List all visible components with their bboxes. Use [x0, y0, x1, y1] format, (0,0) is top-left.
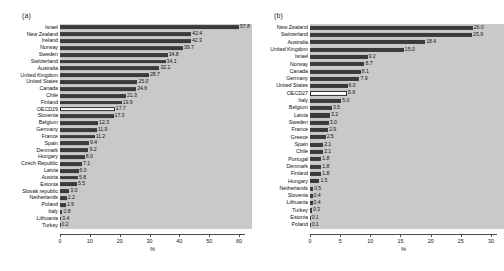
bar-track: 6.0 — [60, 167, 252, 174]
bar-value-label: 26.0 — [473, 25, 484, 30]
axis-tick-label: 5 — [339, 238, 342, 244]
bar-value-label: 3.2 — [330, 113, 338, 118]
bar-track: 42.4 — [60, 31, 252, 38]
bar-track: 0.4 — [310, 200, 504, 207]
panel-a-tag: (a) — [22, 12, 31, 19]
category-label: Denmark — [252, 164, 310, 169]
bar — [60, 121, 98, 125]
bar-track: 0.4 — [310, 192, 504, 199]
bar-value-label: 9.2 — [368, 54, 376, 59]
bar — [60, 148, 88, 152]
bar — [310, 143, 323, 147]
category-label: Belgium — [0, 120, 60, 125]
bar — [60, 46, 183, 50]
bar-track: 39.7 — [60, 44, 252, 51]
bar — [60, 155, 85, 159]
axis-tick-label: 20 — [117, 238, 123, 244]
axis-tick — [90, 234, 91, 237]
bar-value-label: 34.8 — [168, 52, 179, 57]
bar-track: 0.4 — [60, 215, 252, 222]
category-label: Finland — [252, 171, 310, 176]
category-label: Turkey — [0, 223, 60, 228]
bar-track: 11.9 — [60, 126, 252, 133]
bar-track: 8.7 — [310, 61, 504, 68]
bar — [60, 87, 136, 91]
bar-value-label: 1.8 — [321, 157, 329, 162]
axis-tick — [491, 234, 492, 237]
axis-tick-label: 60 — [236, 238, 242, 244]
bar-row: France11.2 — [0, 133, 252, 140]
category-label: Israel — [0, 25, 60, 30]
category-label: Chile — [0, 93, 60, 98]
bar-value-label: 7.1 — [82, 161, 90, 166]
bar-value-label: 25.0 — [137, 79, 148, 84]
axis-tick-label: 15 — [397, 238, 403, 244]
bar-row: Norway8.7 — [252, 61, 504, 68]
bar — [60, 26, 239, 30]
bar-value-label: 24.6 — [136, 86, 147, 91]
bar-value-label: 0.4 — [313, 201, 321, 206]
category-label: Germany — [0, 127, 60, 132]
axis-tick-label: 10 — [367, 238, 373, 244]
bar — [310, 55, 368, 59]
bar-row: Slovenia0.4 — [252, 192, 504, 199]
bar — [310, 179, 319, 183]
category-label: Canada — [252, 69, 310, 74]
panel-a-bar-rows: Israel57.8New Zealand42.4Ireland42.3Norw… — [0, 24, 252, 229]
panel-b-plot: New Zealand26.0Switzerland25.9Australia1… — [252, 24, 504, 234]
bar-value-label: 17.7 — [115, 107, 126, 112]
axis-tick — [370, 234, 371, 237]
bar-track: 2.9 — [310, 126, 504, 133]
bar-row: Netherlands0.5 — [252, 185, 504, 192]
category-label: Latvia — [0, 168, 60, 173]
bar-row: Italy5.0 — [252, 97, 504, 104]
category-label: Netherlands — [252, 186, 310, 191]
bar-value-label: 3.5 — [332, 105, 340, 110]
bar-row: Poland0.1 — [252, 221, 504, 228]
category-label: Sweden — [0, 52, 60, 57]
axis-tick-label: 30 — [488, 238, 494, 244]
category-label: Czech Republic — [0, 161, 60, 166]
category-label: United States — [252, 83, 310, 88]
category-label: Canada — [0, 86, 60, 91]
category-label: Norway — [0, 45, 60, 50]
bar-row: Australia18.4 — [252, 39, 504, 46]
bar-track: 1.9 — [60, 202, 252, 209]
bar — [60, 32, 191, 36]
bar-track: 21.3 — [60, 92, 252, 99]
bar-track: 34.1 — [60, 58, 252, 65]
panel-a-x-axis: 0102030405060% — [0, 234, 252, 264]
category-label: United States — [0, 79, 60, 84]
axis-tick-label: 10 — [87, 238, 93, 244]
bar — [60, 60, 166, 64]
bar-track: 2.1 — [310, 148, 504, 155]
axis-title: % — [401, 246, 406, 252]
bar-track: 5.0 — [310, 97, 504, 104]
category-label: Portugal — [252, 157, 310, 162]
bar-row: Netherlands2.2 — [0, 195, 252, 202]
bar-track: 0.8 — [60, 208, 252, 215]
axis-tick — [120, 234, 121, 237]
bar-row: Portugal1.8 — [252, 156, 504, 163]
bar-track: 7.1 — [60, 161, 252, 168]
bar-row: Switzerland34.1 — [0, 58, 252, 65]
bar-row: Turkey0.2 — [0, 222, 252, 229]
axis-line — [310, 234, 497, 235]
category-label: Austria — [0, 175, 60, 180]
bar-row: Austria5.8 — [0, 174, 252, 181]
bar-track: 25.9 — [310, 31, 504, 38]
bar-row: Canada8.1 — [252, 68, 504, 75]
bar-value-label: 0.5 — [313, 186, 321, 191]
bar-row: United States6.0 — [252, 83, 504, 90]
axis-line — [60, 234, 245, 235]
bar — [60, 169, 79, 173]
bar-value-label: 0.1 — [311, 215, 319, 220]
panel-a: (a) Israel57.8New Zealand42.4Ireland42.3… — [0, 0, 252, 271]
bar — [310, 113, 330, 117]
bar — [60, 135, 95, 139]
category-label: Switzerland — [252, 32, 310, 37]
bar-track: 57.8 — [60, 24, 252, 31]
bar-row: Latvia3.2 — [252, 112, 504, 119]
bar-value-label: 2.2 — [67, 196, 75, 201]
panel-b: (b) New Zealand26.0Switzerland25.9Austra… — [252, 0, 504, 271]
